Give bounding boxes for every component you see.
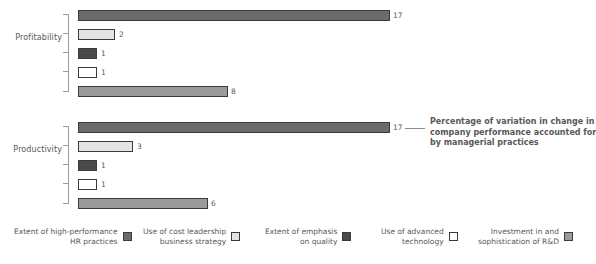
legend-item-cost-leadership[interactable]: Use of cost leadership business strategy bbox=[143, 227, 240, 246]
axis-tick bbox=[63, 183, 68, 184]
axis-tick bbox=[63, 203, 68, 204]
axis-bracket-profitability bbox=[68, 14, 69, 92]
legend-label-line-2: on quality bbox=[265, 237, 337, 247]
legend-swatch-hr-practices bbox=[123, 232, 132, 241]
bar-value-label: 1 bbox=[101, 49, 106, 59]
chart-legend: Extent of high-performance HR practices … bbox=[0, 224, 584, 258]
legend-label: Investment in and sophistication of R&D bbox=[478, 227, 559, 246]
axis-tick bbox=[63, 126, 68, 127]
annotation-leader-line bbox=[405, 128, 425, 129]
bar-value-label: 1 bbox=[101, 161, 106, 171]
legend-label-line-1: Extent of emphasis bbox=[265, 227, 337, 237]
bar bbox=[78, 48, 97, 59]
legend-label-line-1: Use of advanced bbox=[381, 227, 444, 237]
bar-value-label: 8 bbox=[231, 87, 236, 97]
bar bbox=[78, 160, 97, 171]
legend-label-line-2: sophistication of R&D bbox=[478, 237, 559, 247]
bar bbox=[78, 86, 228, 97]
legend-label-line-2: business strategy bbox=[143, 237, 226, 247]
legend-label: Use of advanced technology bbox=[381, 227, 444, 246]
legend-item-emphasis-quality[interactable]: Extent of emphasis on quality bbox=[265, 227, 351, 246]
legend-swatch-advanced-technology bbox=[449, 232, 458, 241]
legend-item-hr-practices[interactable]: Extent of high-performance HR practices bbox=[14, 227, 132, 246]
axis-tick bbox=[63, 33, 68, 34]
axis-tick bbox=[63, 91, 68, 92]
legend-swatch-cost-leadership bbox=[231, 232, 240, 241]
bar bbox=[78, 10, 390, 21]
legend-label-line-1: Use of cost leadership bbox=[143, 227, 226, 237]
legend-label: Extent of high-performance HR practices bbox=[14, 227, 118, 246]
bar bbox=[78, 67, 97, 78]
bar-value-label: 6 bbox=[211, 199, 216, 209]
axis-tick bbox=[63, 71, 68, 72]
legend-label-line-1: Investment in and bbox=[478, 227, 559, 237]
bar-value-label: 2 bbox=[119, 30, 124, 40]
axis-tick bbox=[63, 145, 68, 146]
bar-value-label: 17 bbox=[393, 123, 403, 133]
annotation-line-3: by managerial practices bbox=[430, 138, 539, 149]
annotation-line-2: company performance accounted for bbox=[430, 128, 596, 139]
annotation-line-1: Percentage of variation in change in bbox=[430, 117, 594, 128]
bar-value-label: 1 bbox=[101, 180, 106, 190]
bar bbox=[78, 141, 133, 152]
legend-item-advanced-technology[interactable]: Use of advanced technology bbox=[381, 227, 458, 246]
legend-swatch-rnd-investment bbox=[564, 232, 573, 241]
axis-tick bbox=[63, 164, 68, 165]
legend-label-line-1: Extent of high-performance bbox=[14, 227, 118, 237]
legend-swatch-emphasis-quality bbox=[342, 232, 351, 241]
legend-label: Use of cost leadership business strategy bbox=[143, 227, 226, 246]
axis-tick bbox=[63, 52, 68, 53]
bar bbox=[78, 179, 97, 190]
bar bbox=[78, 29, 115, 40]
group-label-productivity: Productivity bbox=[0, 145, 62, 155]
legend-item-rnd-investment[interactable]: Investment in and sophistication of R&D bbox=[478, 227, 573, 246]
axis-bracket-productivity bbox=[68, 126, 69, 204]
bar-value-label: 17 bbox=[393, 11, 403, 21]
bar-value-label: 3 bbox=[137, 142, 142, 152]
bar-value-label: 1 bbox=[101, 68, 106, 78]
legend-label-line-2: HR practices bbox=[14, 237, 118, 247]
legend-label-line-2: technology bbox=[381, 237, 444, 247]
legend-label: Extent of emphasis on quality bbox=[265, 227, 337, 246]
group-label-profitability: Profitability bbox=[0, 33, 62, 43]
bar bbox=[78, 198, 208, 209]
axis-tick bbox=[63, 14, 68, 15]
bar bbox=[78, 122, 390, 133]
